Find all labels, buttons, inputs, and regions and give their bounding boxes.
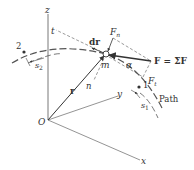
tangent-label: t (51, 26, 55, 36)
displacement-vector-dr (92, 48, 104, 53)
point-2-label: 2 (16, 41, 21, 51)
arc-s1-arrow (135, 92, 140, 98)
z-axis-label: z (44, 5, 50, 15)
point-1-group: 1 s1 (131, 80, 149, 111)
arc-s2-label: s2 (35, 61, 43, 71)
arc-s1-label: s1 (141, 101, 149, 111)
origin-label: O (38, 117, 46, 127)
position-vector-label: r (70, 86, 75, 96)
x-axis-label: x (141, 156, 146, 166)
particle-marker (103, 51, 109, 57)
curvilinear-motion-diagram: z y x O Path 2 s2 1 s1 r t n m (0, 0, 194, 170)
tangent-normal-lines: t n (51, 26, 106, 91)
x-axis (48, 120, 140, 160)
angle-alpha-label: α (126, 60, 132, 70)
normal-label: n (86, 81, 91, 91)
arc-s1-tick (131, 90, 138, 94)
force-label: F = ΣF (154, 56, 188, 66)
arc-s2-tick (26, 58, 30, 66)
tangential-component-dashed (143, 61, 151, 77)
particle-label: m (101, 60, 110, 70)
normal-force-label: Fn (109, 27, 120, 38)
y-axis-label: y (116, 89, 123, 99)
point-2-marker (22, 50, 25, 53)
path-curve (12, 49, 162, 108)
particle: m dr (89, 37, 110, 70)
path-curve-offset-left (28, 54, 62, 63)
force-vectors: F = ΣF Fn Ft α (108, 27, 188, 87)
displacement-label: dr (89, 37, 100, 47)
normal-component-Fn (108, 38, 113, 51)
path-label: Path (159, 94, 179, 104)
point-2-group: 2 s2 (16, 41, 44, 71)
tangential-force-label: Ft (147, 76, 157, 87)
point-1-marker (137, 85, 140, 88)
